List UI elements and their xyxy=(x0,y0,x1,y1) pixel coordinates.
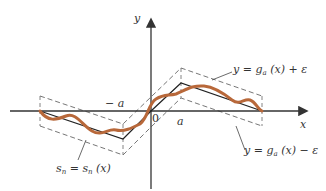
y-axis-label: y xyxy=(134,13,140,24)
x-axis-label: x xyxy=(300,119,306,130)
origin-label: 0 xyxy=(152,113,159,124)
pos-a-tick-label: a xyxy=(177,116,184,127)
leader-lines xyxy=(78,72,245,160)
upper-band-label: y = ga (x) + ε xyxy=(233,64,307,77)
series-label: sn = sn (x) xyxy=(56,163,111,176)
diagram-canvas xyxy=(0,0,326,191)
neg-a-tick-label: − a xyxy=(105,98,124,109)
lower-band-label: y = ga (x) − ε xyxy=(244,145,318,158)
epsilon-band-diagram: y x 0 − a a y = ga (x) + ε y = ga (x) − … xyxy=(0,0,326,191)
